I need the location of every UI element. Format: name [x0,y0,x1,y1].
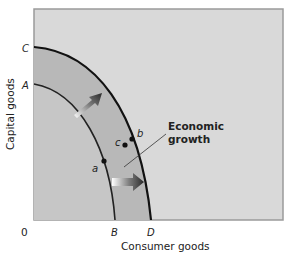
point-c [122,142,127,147]
label-c: c [115,137,121,148]
label-A: A [21,80,29,91]
label-b: b [137,128,143,139]
ppf-diagram: a b c C A B D 0 Economic growth Consumer… [0,0,291,257]
label-D: D [147,227,155,238]
origin-label: 0 [21,226,28,238]
label-a: a [92,163,98,174]
label-C: C [22,43,29,54]
x-axis-title: Consumer goods [121,240,210,252]
y-axis-title: Capital goods [4,78,16,150]
point-a [101,158,106,163]
point-b [129,136,134,141]
annotation-line2: growth [168,133,210,145]
annotation-line1: Economic [168,120,224,132]
label-B: B [111,227,118,238]
